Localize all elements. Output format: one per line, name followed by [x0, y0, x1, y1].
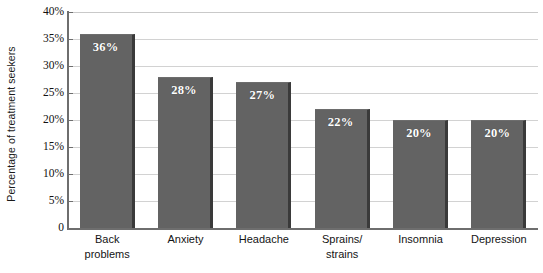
bar-value-label: 36% — [80, 40, 132, 54]
y-axis-tick-label: 35% — [18, 33, 64, 44]
bar-slot: 20% — [393, 12, 448, 228]
y-axis-tick-mark — [68, 39, 73, 40]
bar[interactable]: 20% — [393, 120, 448, 228]
x-axis-line — [67, 228, 538, 230]
x-axis-category-label-line1: Back — [95, 233, 119, 245]
x-axis-category-label-line1: Depression — [471, 233, 527, 245]
gridline — [68, 120, 538, 121]
y-axis-tick-mark — [68, 201, 73, 202]
bar-slot: 22% — [315, 12, 370, 228]
bar-value-label: 28% — [158, 83, 210, 97]
y-axis-tick-labels: 05%10%15%20%25%30%35%40% — [14, 0, 64, 273]
x-axis-category-label: Headache — [225, 232, 303, 247]
bar-value-label: 20% — [471, 126, 523, 140]
x-axis-category-label-line2: problems — [68, 247, 146, 262]
bar[interactable]: 36% — [80, 34, 135, 228]
gridline — [68, 174, 538, 175]
y-axis-tick-label: 40% — [18, 6, 64, 17]
gridline — [68, 147, 538, 148]
y-axis-tick-mark — [68, 174, 73, 175]
gridline — [68, 66, 538, 67]
y-axis-tick-mark — [68, 120, 73, 121]
gridline — [68, 201, 538, 202]
gridline — [68, 12, 538, 13]
x-axis-category-label-line1: Sprains/ — [322, 233, 362, 245]
x-axis-category-label-line1: Headache — [239, 233, 289, 245]
bar[interactable]: 28% — [158, 77, 213, 228]
x-axis-category-label-line2: strains — [303, 247, 381, 262]
y-axis-tick-label: 25% — [18, 87, 64, 98]
x-axis-category-label: Anxiety — [146, 232, 224, 247]
bar-slot: 27% — [236, 12, 291, 228]
bar[interactable]: 22% — [315, 109, 370, 228]
y-axis-tick-mark — [68, 228, 73, 229]
y-axis-tick-label: 10% — [18, 168, 64, 179]
bar-slot: 20% — [471, 12, 526, 228]
plot-area: 36%28%27%22%20%20% — [68, 12, 538, 228]
x-axis-category-label: Sprains/strains — [303, 232, 381, 261]
x-axis-category-label-line1: Insomnia — [398, 233, 443, 245]
y-axis-tick-label: 0 — [18, 222, 64, 233]
y-axis-tick-mark — [68, 66, 73, 67]
bar-slot: 36% — [80, 12, 135, 228]
bar[interactable]: 20% — [471, 120, 526, 228]
x-axis-category-label: Depression — [460, 232, 538, 247]
y-axis-tick-mark — [68, 12, 73, 13]
bar[interactable]: 27% — [236, 82, 291, 228]
y-axis-tick-label: 15% — [18, 141, 64, 152]
y-axis-tick-label: 30% — [18, 60, 64, 71]
x-axis-category-label: Insomnia — [381, 232, 459, 247]
gridline — [68, 39, 538, 40]
x-axis-category-label: Backproblems — [68, 232, 146, 261]
y-axis-tick-mark — [68, 147, 73, 148]
y-axis-tick-label: 5% — [18, 195, 64, 206]
gridline — [68, 93, 538, 94]
bar-value-label: 27% — [236, 88, 288, 102]
bar-slot: 28% — [158, 12, 213, 228]
y-axis-tick-label: 20% — [18, 114, 64, 125]
bar-chart: Percentage of treatment seekers 05%10%15… — [0, 0, 543, 273]
x-axis-category-label-line1: Anxiety — [167, 233, 203, 245]
bar-value-label: 22% — [315, 115, 367, 129]
x-axis-category-labels: BackproblemsAnxietyHeadacheSprains/strai… — [68, 232, 538, 273]
y-axis-tick-mark — [68, 93, 73, 94]
bar-value-label: 20% — [393, 126, 445, 140]
